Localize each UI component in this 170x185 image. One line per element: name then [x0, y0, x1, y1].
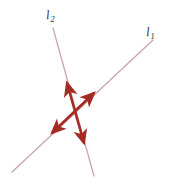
geometry-figure: l2 l1	[0, 0, 170, 185]
geometry-canvas	[0, 0, 170, 185]
line-label-l1: l1	[146, 25, 155, 41]
line-label-l2: l2	[45, 8, 55, 25]
line-label-l1-subscript: 1	[150, 31, 155, 41]
direction-arrow-l2	[67, 83, 84, 143]
line-l1-thin	[12, 40, 153, 172]
line-label-l2-subscript: 2	[50, 14, 55, 24]
